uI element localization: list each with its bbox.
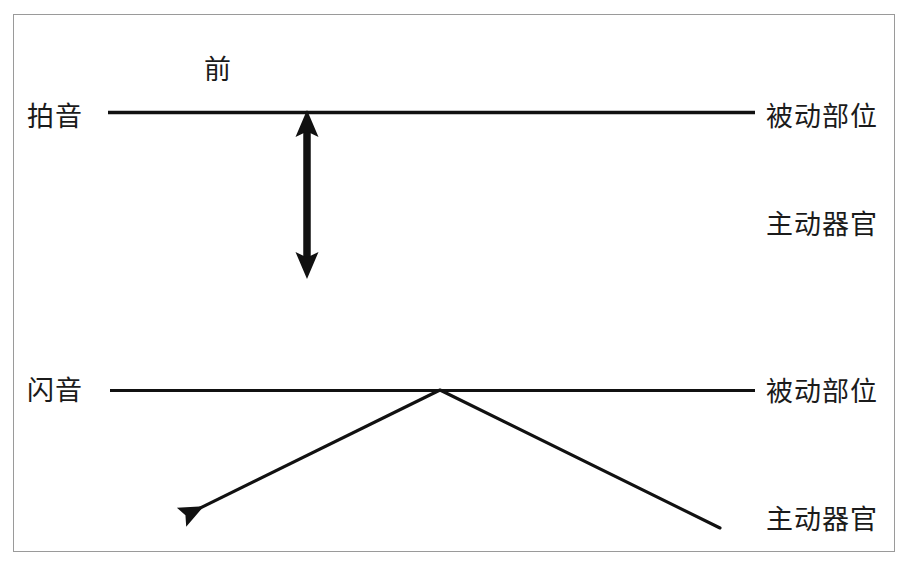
diagram-canvas: 前 拍音 被动部位 主动器官 闪音 被动部位 主动器官 — [0, 0, 906, 569]
figure-frame — [13, 14, 895, 552]
row-label-flap: 闪音 — [27, 377, 83, 404]
tap-active-organ-label: 主动器官 — [766, 211, 878, 238]
flap-active-organ-label: 主动器官 — [766, 506, 878, 533]
row-label-tap: 拍音 — [27, 103, 83, 130]
tap-passive-part-label: 被动部位 — [766, 103, 878, 130]
flap-passive-part-label: 被动部位 — [766, 378, 878, 405]
front-direction-label: 前 — [204, 56, 232, 83]
